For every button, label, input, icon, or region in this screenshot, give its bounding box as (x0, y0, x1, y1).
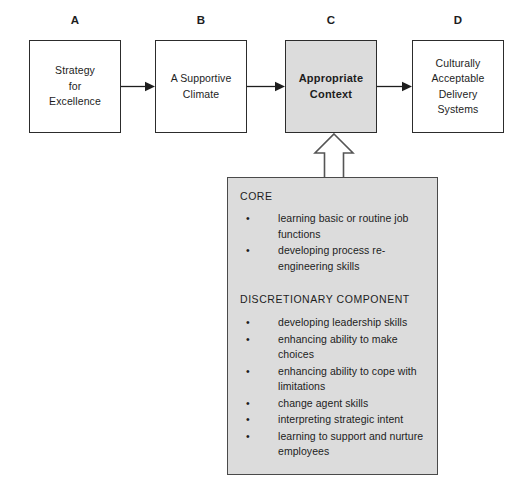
list-item-label: developing leadership skills (278, 316, 407, 328)
list-item: • learning to support and nurture employ… (240, 429, 427, 460)
list-item-label: learning to support and nurture employee… (278, 430, 423, 458)
flow-box-label: A Supportive Climate (165, 71, 238, 102)
flow-box-culturally-acceptable-delivery-systems: Culturally Acceptable Delivery Systems (412, 40, 504, 133)
discretionary-component-heading: DISCRETIONARY COMPONENT (240, 293, 427, 305)
flow-box-label: Appropriate Context (293, 71, 370, 102)
list-item: • enhancing ability to cope with limitat… (240, 364, 427, 395)
box-caption-c: C (285, 14, 377, 26)
list-item-label: enhancing ability to cope with limitatio… (278, 365, 417, 393)
bullet-icon: • (246, 396, 250, 412)
flow-box-supportive-climate: A Supportive Climate (155, 40, 247, 133)
list-item: • interpreting strategic intent (240, 412, 427, 428)
list-item-label: enhancing ability to make choices (278, 333, 398, 361)
list-item-label: developing process re-engineering skills (278, 244, 385, 272)
list-item-label: change agent skills (278, 397, 368, 409)
flow-box-appropriate-context: Appropriate Context (285, 40, 377, 133)
core-item-list: • learning basic or routine job function… (240, 211, 427, 274)
bullet-icon: • (246, 211, 250, 227)
discretionary-item-list: • developing leadership skills • enhanci… (240, 315, 427, 460)
box-caption-d: D (412, 14, 504, 26)
list-item: • developing process re-engineering skil… (240, 243, 427, 274)
list-item: • enhancing ability to make choices (240, 332, 427, 363)
core-heading: CORE (240, 190, 427, 202)
block-arrow-up-to-context (312, 132, 356, 179)
process-diagram: A B C D Strategy for Excellence A Suppor… (0, 0, 531, 500)
bullet-icon: • (246, 364, 250, 380)
bullet-icon: • (246, 429, 250, 445)
bullet-icon: • (246, 332, 250, 348)
arrow-b-to-c (247, 81, 286, 92)
bullet-icon: • (246, 243, 250, 259)
arrow-a-to-b (121, 81, 156, 92)
flow-box-strategy-for-excellence: Strategy for Excellence (29, 40, 121, 133)
list-item-label: interpreting strategic intent (278, 413, 403, 425)
flow-box-label: Strategy for Excellence (43, 63, 107, 110)
core-competencies-panel: CORE • learning basic or routine job fun… (227, 177, 438, 475)
box-caption-b: B (155, 14, 247, 26)
arrow-c-to-d (377, 81, 413, 92)
flow-box-label: Culturally Acceptable Delivery Systems (426, 56, 491, 118)
bullet-icon: • (246, 315, 250, 331)
list-item: • learning basic or routine job function… (240, 211, 427, 242)
list-item: • change agent skills (240, 396, 427, 412)
list-item-label: learning basic or routine job functions (278, 212, 408, 240)
list-item: • developing leadership skills (240, 315, 427, 331)
bullet-icon: • (246, 412, 250, 428)
box-caption-a: A (29, 14, 121, 26)
